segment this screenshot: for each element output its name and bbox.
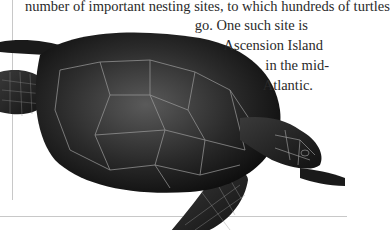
- paragraph-line-2: go. One such site is: [195, 16, 308, 35]
- paragraph-line-1: number of important nesting sites, to wh…: [25, 0, 390, 16]
- paragraph-line-3: Ascension Island: [224, 36, 323, 55]
- paragraph-line-4: in the mid-: [265, 56, 329, 75]
- paragraph-line-5: Atlantic.: [263, 76, 313, 95]
